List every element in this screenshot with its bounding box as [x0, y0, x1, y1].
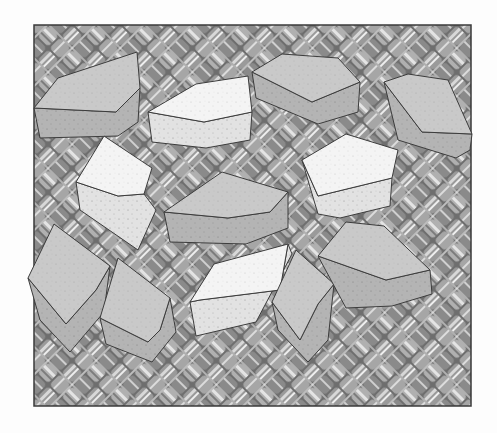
illustration	[0, 0, 497, 433]
